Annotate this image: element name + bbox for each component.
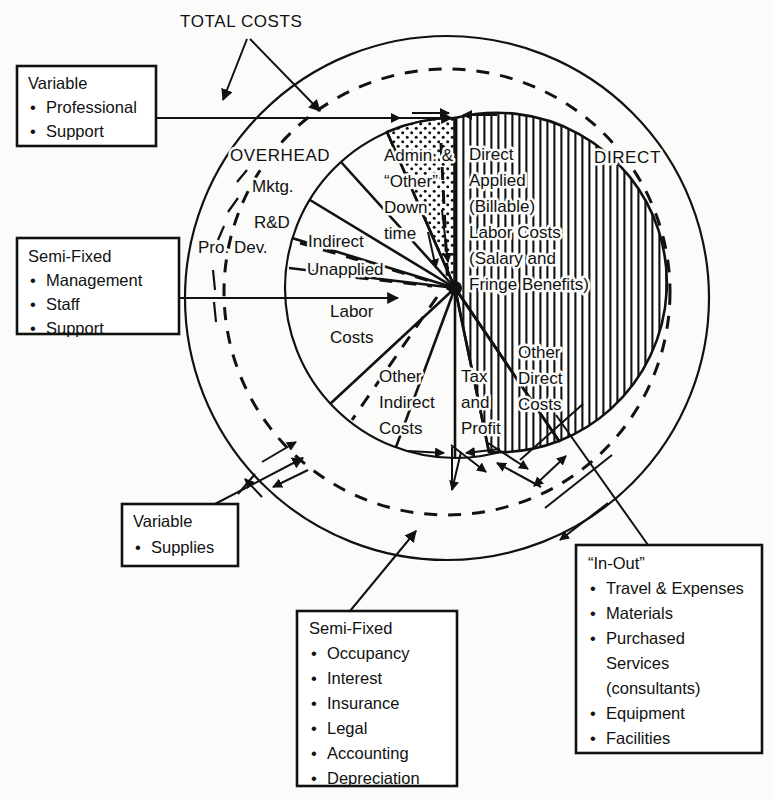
measure-arrow-mid [534, 456, 566, 486]
tax-profit-line-3: Profit [461, 419, 501, 438]
box-semi-fixed-indirect-bullet-4-dot: • [311, 744, 317, 762]
labor-costs-label: Labor Costs [330, 302, 374, 347]
box-semi-fixed-indirect-title: Semi-Fixed [309, 619, 392, 637]
box-in-out-bullet-5-dot: • [590, 704, 596, 722]
box-in-out-bullet-0-dot: • [590, 579, 596, 597]
label-pro-dev: Pro. Dev. [198, 238, 268, 257]
box-semi-fixed-labor-title: Semi-Fixed [28, 247, 111, 265]
box-semi-fixed-indirect-bullet-2-dot: • [311, 694, 317, 712]
box-semi-fixed-labor-item-1: Staff [46, 295, 80, 313]
direct-applied-line-5: (Salary and [469, 249, 556, 268]
label-unapplied: Unapplied [307, 260, 384, 279]
box-variable-supplies[interactable]: Variable • Supplies [122, 458, 303, 566]
box-semi-fixed-indirect-item-0: Occupancy [327, 644, 410, 662]
box-variable-supplies-bullet-0-dot: • [135, 538, 141, 556]
box-in-out-bullet-6-dot: • [590, 729, 596, 747]
direct-ring-label: DIRECT [594, 148, 661, 167]
box-semi-fixed-indirect[interactable]: Semi-Fixed • Occupancy • Interest • Insu… [297, 531, 457, 787]
box-semi-fixed-indirect-item-3: Legal [327, 719, 367, 737]
box-in-out-bullet-1-dot: • [590, 604, 596, 622]
box-semi-fixed-indirect-bullet-0-dot: • [311, 644, 317, 662]
box-semi-fixed-labor-item-2: Support [46, 319, 104, 337]
overhead-ring-label: OVERHEAD [230, 146, 330, 165]
box-variable-labor-bullet-1-dot: • [30, 122, 36, 140]
box-in-out-item-1: Materials [606, 604, 673, 622]
other-direct-line-2: Direct [518, 369, 563, 388]
box-semi-fixed-indirect-item-5: Depreciation [327, 769, 420, 787]
dash-prodev-lower2 [214, 302, 216, 322]
admin-line-4: time [384, 224, 416, 243]
other-direct-line-3: Costs [518, 395, 561, 414]
box-in-out-item-2: Purchased [606, 629, 685, 647]
dash-prodev-lower [213, 270, 215, 290]
box-in-out-title: “In-Out” [588, 554, 645, 572]
dash-rnd-split [228, 198, 238, 212]
box-semi-fixed-indirect-bullet-3-dot: • [311, 719, 317, 737]
other-indirect-line-2: Indirect [379, 393, 435, 412]
tax-profit-line-1: Tax [461, 367, 488, 386]
direct-applied-line-1: Direct [469, 145, 514, 164]
box-in-out-bullet-2-dot: • [590, 629, 596, 647]
label-mktg: Mktg. [252, 177, 294, 196]
box-in-out-item-6: Facilities [606, 729, 670, 747]
box-semi-fixed-indirect-connector [350, 531, 416, 611]
cost-structure-diagram: TOTAL COSTS OVERHEAD DIRECT Mktg. R&D Pr… [0, 0, 773, 800]
box-variable-labor-item-1: Support [46, 122, 104, 140]
box-variable-labor-title: Variable [28, 74, 87, 92]
other-direct-line-1: Other [518, 343, 561, 362]
direct-applied-line-3: (Billable) [469, 197, 535, 216]
box-in-out-item-0: Travel & Expenses [606, 579, 744, 597]
box-semi-fixed-indirect-bullet-5-dot: • [311, 769, 317, 787]
box-variable-supplies-item-0: Supplies [151, 538, 214, 556]
direct-applied-line-2: Applied [469, 171, 526, 190]
box-in-out-item-3: Services [606, 654, 669, 672]
overhead-band-arrow-up [262, 442, 296, 462]
other-indirect-line-1: Other [379, 367, 422, 386]
box-in-out-item-4: (consultants) [606, 679, 700, 697]
admin-line-2: “Other” [384, 172, 438, 191]
total-costs-leaders [223, 39, 320, 111]
tax-profit-line-2: and [461, 393, 489, 412]
admin-line-3: Down [384, 198, 427, 217]
box-semi-fixed-indirect-item-2: Insurance [327, 694, 399, 712]
other-direct-costs-label: Other Direct Costs [518, 343, 563, 414]
box-semi-fixed-labor-bullet-1-dot: • [30, 295, 36, 313]
label-rnd: R&D [254, 213, 290, 232]
labor-costs-line-2: Costs [330, 328, 373, 347]
box-variable-supplies-connector [215, 458, 303, 504]
box-semi-fixed-indirect-bullet-1-dot: • [311, 669, 317, 687]
measure-arrow-outer [560, 503, 608, 540]
measure-arrow-down [497, 463, 541, 487]
box-variable-supplies-title: Variable [133, 512, 192, 530]
box-semi-fixed-indirect-item-1: Interest [327, 669, 382, 687]
labor-costs-line-1: Labor [330, 302, 374, 321]
total-costs-arrow-left [223, 39, 247, 100]
other-indirect-line-3: Costs [379, 419, 422, 438]
box-semi-fixed-labor-bullet-0-dot: • [30, 271, 36, 289]
label-indirect: Indirect [308, 232, 364, 251]
box-variable-labor-item-0: Professional [46, 98, 137, 116]
other-indirect-costs-label: Other Indirect Costs [379, 367, 435, 438]
direct-applied-line-6: Fringe Benefits) [469, 275, 589, 294]
page-title: TOTAL COSTS [180, 12, 302, 31]
box-variable-labor-bullet-0-dot: • [30, 98, 36, 116]
admin-line-1: Admin. & [384, 146, 454, 165]
box-in-out-item-5: Equipment [606, 704, 685, 722]
overhead-band-arrow-down [273, 470, 308, 487]
box-semi-fixed-labor-item-0: Management [46, 271, 143, 289]
dash-mktg-split [237, 170, 247, 182]
diagram-canvas: TOTAL COSTS OVERHEAD DIRECT Mktg. R&D Pr… [0, 0, 773, 800]
convergence-point [448, 281, 462, 295]
box-semi-fixed-indirect-item-4: Accounting [327, 744, 409, 762]
box-semi-fixed-labor-bullet-2-dot: • [30, 319, 36, 337]
direct-applied-line-4: Labor Costs [469, 223, 561, 242]
